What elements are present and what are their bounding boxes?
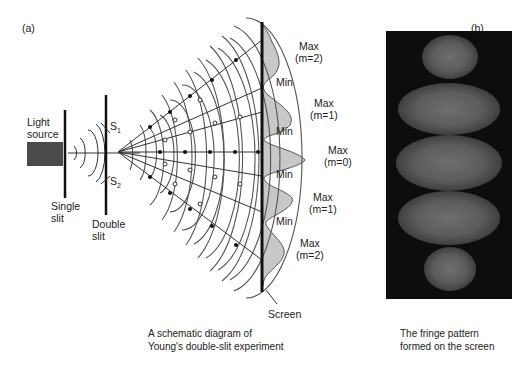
fringe-m0 [396,135,502,191]
max-m0-label: Max (m=0) [324,144,352,168]
screen-label: Screen [268,308,301,320]
fringe-m1-top [398,83,500,135]
screen-pointer [266,290,277,304]
max-m2-bottom-label: Max (m=2) [296,237,324,261]
max-m1-bottom-label: Max (m=1) [309,191,337,215]
panel-b-caption: The fringe pattern formed on the screen [400,327,495,353]
max-m1-top-label: Max (m=1) [310,97,338,121]
fringe-m2-bottom [424,247,476,291]
light-source-label: Light source [27,116,59,140]
light-source-box [27,142,63,166]
fringe-rays [118,40,262,260]
min-label-3: Min [276,168,293,180]
single-slit-label: Single slit [51,200,80,224]
min-label-4: Min [276,215,293,227]
max-m2-top-label: Max (m=2) [295,40,323,64]
fringe-pattern-image [386,31,512,299]
min-label-1: Min [276,76,293,88]
fringe-m2-top [422,35,478,79]
s2-label: S2 [110,175,121,192]
s1-label: S1 [110,120,121,137]
fringe-m1-bottom [398,191,500,245]
min-label-2: Min [276,125,293,137]
panel-a-caption: A schematic diagram of Young's double-sl… [148,327,284,353]
double-slit-label: Double slit [92,218,125,242]
panel-a-label: (a) [22,22,35,34]
